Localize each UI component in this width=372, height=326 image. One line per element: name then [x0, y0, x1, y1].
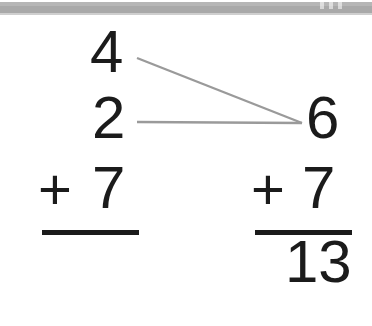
left-plus-operator: +	[38, 160, 72, 218]
right-final-sum: 13	[285, 232, 352, 292]
connector-from-4-to-6	[137, 58, 302, 123]
right-plus-operator: +	[251, 160, 285, 218]
band-notch-3	[338, 2, 342, 9]
band-notch-2	[329, 2, 333, 9]
right-partial-sum: 6	[306, 88, 339, 148]
scanned-page-edge-band	[0, 2, 372, 13]
left-addend-top: 4	[90, 22, 123, 82]
left-addend-middle: 2	[92, 88, 125, 148]
worksheet-screenshot: 4 2 + 7 6 + 7 13	[0, 0, 372, 326]
left-addend-bottom: 7	[92, 158, 125, 218]
connector-from-2-to-6	[137, 122, 302, 123]
band-lower-edge	[0, 13, 372, 15]
band-highlight	[0, 2, 372, 6]
band-notch-1	[320, 2, 324, 9]
right-addend: 7	[302, 158, 335, 218]
left-sum-rule	[42, 230, 139, 235]
